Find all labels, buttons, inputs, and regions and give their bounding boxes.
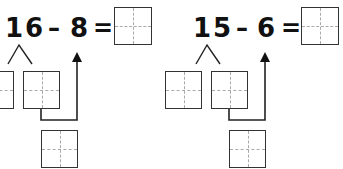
arrow-up-icon [260,52,270,62]
minuend: 15 [193,15,233,41]
answer-box[interactable] [301,7,339,45]
minuend: 16 [5,15,45,41]
split-box-ones[interactable] [23,71,60,109]
split-box-tens[interactable] [165,71,202,109]
split-box-ones[interactable] [211,71,248,109]
split-lines-right [196,45,220,64]
intermediate-box[interactable] [229,130,266,168]
equals-sign: = [281,16,301,40]
arrow-up-icon [72,52,82,62]
subtrahend: 8 [70,15,88,41]
intermediate-box[interactable] [41,130,78,168]
split-box-tens[interactable] [0,71,14,109]
answer-box[interactable] [114,7,152,45]
subtrahend: 6 [257,15,275,41]
minus-sign: – [236,16,248,40]
equals-sign: = [93,16,113,40]
minus-sign: – [48,16,60,40]
split-lines-left [8,45,32,64]
